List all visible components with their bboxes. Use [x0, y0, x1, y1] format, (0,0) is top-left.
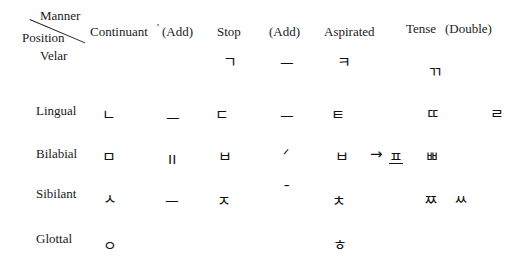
sibilant-add-1: ㅡ [165, 190, 179, 211]
sibilant-add-2: ˉ [283, 183, 291, 201]
sibilant-tense: ㅉ [424, 188, 438, 209]
lingual-extra: ㄹ [490, 102, 504, 123]
bilabial-aspirated: ㅂ [335, 145, 349, 166]
col-header-add-1: (Add) [162, 24, 193, 40]
sibilant-aspirated: ㅊ [332, 189, 346, 210]
bilabial-add-2: ᐟ [283, 146, 289, 164]
bilabial-stop: ㅂ [218, 145, 232, 166]
bilabial-tense: ㅃ [425, 145, 439, 166]
velar-tense: ㄲ [428, 60, 442, 81]
sibilant-stop: ㅈ [217, 189, 231, 210]
col-header-double: (Double) [445, 21, 492, 37]
lingual-stop: ㄷ [215, 103, 229, 124]
row-label-velar: Velar [40, 48, 67, 64]
col-header-add-2: (Add) [269, 24, 300, 40]
bilabial-continuant: ㅁ [102, 145, 116, 166]
col-header-tense: Tense [406, 21, 436, 37]
tick-mark: ' [157, 21, 159, 33]
row-label-sibilant: Sibilant [36, 186, 76, 202]
sibilant-tense-2: ㅆ [454, 188, 468, 209]
lingual-add-2: ㅡ [280, 105, 294, 126]
sibilant-continuant: ㅅ [103, 187, 117, 208]
glottal-continuant: ㅇ [103, 234, 117, 255]
lingual-continuant: ㄴ [102, 103, 116, 124]
lingual-add-1: ㅡ [166, 107, 180, 128]
col-header-continuant: Continuant [90, 24, 148, 40]
lingual-aspirated: ㅌ [331, 103, 345, 124]
corner-manner-label: Manner [40, 8, 80, 24]
arrow-icon: → [370, 145, 383, 163]
lingual-tense: ㄸ [426, 102, 440, 123]
col-header-stop: Stop [217, 24, 241, 40]
velar-stop: ㄱ [223, 50, 237, 71]
velar-add: ㅡ [280, 52, 294, 73]
bilabial-add-1: ıı [168, 150, 176, 168]
row-label-glottal: Glottal [36, 231, 72, 247]
col-header-aspirated: Aspirated [324, 24, 375, 40]
bilabial-derived: ㅍ [389, 145, 403, 166]
row-label-lingual: Lingual [36, 103, 76, 119]
row-label-bilabial: Bilabial [36, 146, 77, 162]
velar-aspirated: ㅋ [337, 50, 351, 71]
glottal-aspirated: ㅎ [333, 233, 347, 254]
